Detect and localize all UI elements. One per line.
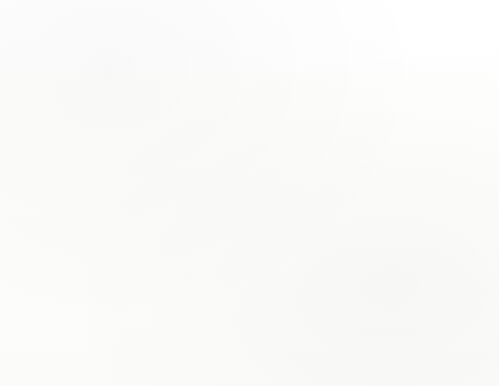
- worksheet-canvas: [0, 0, 499, 386]
- worksheet-page: [0, 0, 499, 386]
